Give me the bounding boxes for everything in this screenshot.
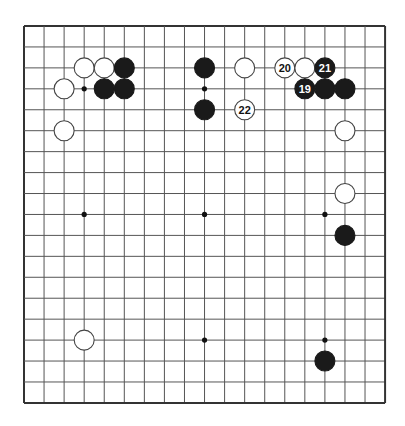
black-stone: 21 bbox=[315, 58, 335, 78]
white-stone bbox=[235, 58, 255, 78]
black-stone bbox=[315, 79, 335, 99]
move-number-label: 21 bbox=[319, 62, 331, 74]
black-stone bbox=[195, 100, 215, 120]
stone-circle bbox=[94, 79, 114, 99]
black-stone bbox=[114, 58, 134, 78]
stone-circle bbox=[74, 58, 94, 78]
stone-circle bbox=[335, 79, 355, 99]
star-point bbox=[202, 338, 207, 343]
black-stone bbox=[315, 351, 335, 371]
go-board: 22202119 bbox=[0, 0, 405, 426]
stone-circle bbox=[54, 79, 74, 99]
stone-circle bbox=[195, 58, 215, 78]
star-point bbox=[82, 86, 87, 91]
stone-circle bbox=[335, 184, 355, 204]
stone-circle bbox=[54, 121, 74, 141]
stone-circle bbox=[315, 79, 335, 99]
stone-circle bbox=[114, 79, 134, 99]
stone-circle bbox=[335, 121, 355, 141]
black-stone bbox=[195, 58, 215, 78]
move-number-label: 22 bbox=[239, 104, 251, 116]
white-stone bbox=[335, 184, 355, 204]
star-point bbox=[202, 212, 207, 217]
star-point bbox=[322, 338, 327, 343]
black-stone bbox=[335, 79, 355, 99]
white-stone bbox=[94, 58, 114, 78]
stone-circle bbox=[74, 330, 94, 350]
black-stone bbox=[335, 225, 355, 245]
stone-circle bbox=[195, 100, 215, 120]
white-stone: 20 bbox=[275, 58, 295, 78]
stone-circle bbox=[295, 58, 315, 78]
move-number-label: 20 bbox=[279, 62, 291, 74]
white-stone bbox=[74, 330, 94, 350]
stone-circle bbox=[94, 58, 114, 78]
black-stone bbox=[94, 79, 114, 99]
star-point bbox=[202, 86, 207, 91]
white-stone bbox=[335, 121, 355, 141]
black-stone bbox=[114, 79, 134, 99]
white-stone bbox=[295, 58, 315, 78]
star-point bbox=[322, 212, 327, 217]
white-stone bbox=[54, 79, 74, 99]
white-stone: 22 bbox=[235, 100, 255, 120]
stone-circle bbox=[235, 58, 255, 78]
move-number-label: 19 bbox=[299, 83, 311, 95]
stone-circle bbox=[315, 351, 335, 371]
stone-circle bbox=[335, 225, 355, 245]
white-stone bbox=[74, 58, 94, 78]
white-stone bbox=[54, 121, 74, 141]
star-point bbox=[82, 212, 87, 217]
stone-circle bbox=[114, 58, 134, 78]
black-stone: 19 bbox=[295, 79, 315, 99]
